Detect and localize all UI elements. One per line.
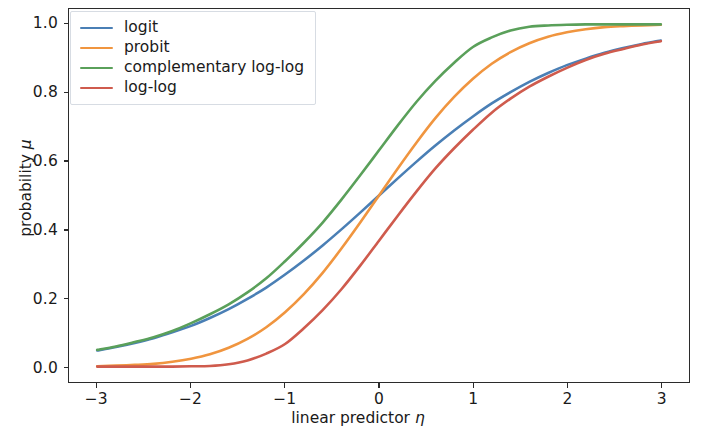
y-axis-label: probability μ [17, 68, 35, 308]
x-tick-mark [190, 383, 191, 388]
legend-color-swatch-icon [80, 67, 113, 70]
x-tick-label: 0 [374, 390, 384, 408]
y-tick-label: 0.6 [33, 152, 58, 170]
figure-canvas: probability μ 0.00.20.40.60.81.0 −3−2−10… [0, 0, 716, 429]
legend: logitprobitcomplementary log-loglog-log [70, 11, 316, 105]
legend-color-swatch-icon [80, 47, 113, 50]
legend-item-label: complementary log-log [124, 60, 304, 76]
x-axis-label-text: linear predictor [291, 409, 415, 427]
legend-item[interactable]: probit [80, 38, 304, 58]
x-tick-label: 3 [657, 390, 667, 408]
legend-item-label: log-log [124, 80, 177, 96]
legend-color-swatch-icon [80, 87, 113, 90]
y-axis-label-symbol: μ [17, 139, 35, 149]
x-axis-label-symbol: η [415, 409, 425, 427]
x-tick-label: −1 [273, 390, 296, 408]
y-tick-label: 0.4 [33, 221, 58, 239]
legend-item-label: logit [124, 20, 158, 36]
legend-item[interactable]: log-log [80, 78, 304, 98]
legend-item[interactable]: logit [80, 18, 304, 38]
x-tick-label: 1 [468, 390, 478, 408]
x-tick-mark [378, 383, 379, 388]
y-tick-label: 0.8 [33, 83, 58, 101]
x-tick-label: 2 [562, 390, 572, 408]
y-tick-label: 1.0 [33, 14, 58, 32]
x-tick-mark [661, 383, 662, 388]
legend-item[interactable]: complementary log-log [80, 58, 304, 78]
x-axis-label: linear predictor η [0, 409, 716, 427]
x-tick-mark [473, 383, 474, 388]
x-tick-mark [284, 383, 285, 388]
x-tick-label: −3 [85, 390, 108, 408]
legend-item-label: probit [124, 40, 170, 56]
legend-color-swatch-icon [80, 27, 113, 30]
y-tick-label: 0.0 [33, 359, 58, 377]
x-tick-label: −2 [179, 390, 202, 408]
x-tick-mark [96, 383, 97, 388]
x-tick-mark [567, 383, 568, 388]
y-tick-label: 0.2 [33, 290, 58, 308]
